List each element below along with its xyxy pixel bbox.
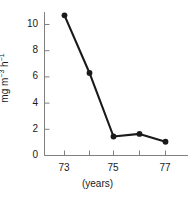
data-point-74 (87, 70, 93, 76)
data-point-76 (137, 131, 143, 137)
chart-plot-area (0, 0, 195, 198)
data-series-markers (62, 12, 169, 144)
y-axis-ticks (45, 25, 50, 156)
line-chart-figure: mg m−3 h−1 10 8 6 4 2 0 73 75 77 (years) (0, 0, 195, 198)
data-series-line (65, 15, 166, 141)
x-axis-ticks (65, 151, 166, 156)
data-point-73 (62, 12, 68, 18)
data-point-77 (163, 139, 169, 145)
data-point-75 (111, 134, 117, 140)
